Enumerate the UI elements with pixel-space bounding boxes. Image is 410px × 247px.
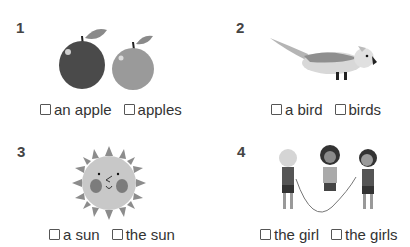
option-a-sun[interactable]: a sun — [49, 226, 100, 243]
apples-image — [55, 22, 155, 92]
checkbox[interactable] — [271, 104, 282, 115]
checkbox[interactable] — [331, 229, 342, 240]
checkbox[interactable] — [40, 104, 51, 115]
checkbox[interactable] — [124, 104, 135, 115]
girls-jumping-rope-image — [272, 145, 387, 215]
options-4: the girl the girls — [260, 226, 398, 243]
option-apples[interactable]: apples — [124, 101, 182, 118]
option-an-apple[interactable]: an apple — [40, 101, 112, 118]
options-1: an apple apples — [40, 101, 182, 118]
exercise-number-2: 2 — [236, 19, 244, 36]
options-3: a sun the sun — [49, 226, 175, 243]
checkbox[interactable] — [260, 229, 271, 240]
exercise-number-1: 1 — [16, 19, 24, 36]
option-birds[interactable]: birds — [335, 101, 382, 118]
options-2: a bird birds — [271, 101, 381, 118]
exercise-number-3: 3 — [17, 143, 25, 160]
checkbox[interactable] — [112, 229, 123, 240]
bird-image — [270, 36, 385, 88]
option-the-sun[interactable]: the sun — [112, 226, 175, 243]
option-the-girl[interactable]: the girl — [260, 226, 319, 243]
exercise-number-4: 4 — [237, 143, 245, 160]
checkbox[interactable] — [335, 104, 346, 115]
option-the-girls[interactable]: the girls — [331, 226, 398, 243]
checkbox[interactable] — [49, 229, 60, 240]
option-a-bird[interactable]: a bird — [271, 101, 323, 118]
sun-image — [72, 146, 146, 220]
